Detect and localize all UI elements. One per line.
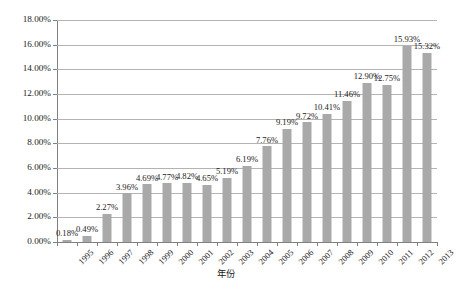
x-axis-tick bbox=[357, 242, 358, 246]
bar[interactable] bbox=[103, 214, 112, 242]
x-axis-label: 2008 bbox=[337, 248, 355, 266]
y-axis-label: 0.00% bbox=[0, 237, 51, 246]
x-axis-tick bbox=[197, 242, 198, 246]
bar-value-label: 6.19% bbox=[236, 155, 258, 164]
bar[interactable] bbox=[223, 178, 232, 242]
x-axis-label: 2007 bbox=[317, 248, 335, 266]
x-axis-label: 2001 bbox=[197, 248, 215, 266]
bar[interactable] bbox=[83, 236, 92, 242]
bar-group: 9.72% bbox=[297, 20, 317, 242]
x-axis-tick bbox=[377, 242, 378, 246]
y-axis-label: 4.00% bbox=[0, 188, 51, 197]
x-axis-label: 1996 bbox=[97, 248, 115, 266]
bar[interactable] bbox=[303, 122, 312, 242]
y-axis-label: 2.00% bbox=[0, 212, 51, 221]
bar-group: 3.96% bbox=[117, 20, 137, 242]
bar-value-label: 4.65% bbox=[196, 174, 218, 183]
gridline bbox=[57, 242, 437, 243]
x-axis-label: 1998 bbox=[137, 248, 155, 266]
x-axis-label: 1995 bbox=[77, 248, 95, 266]
bar-group: 12.75% bbox=[377, 20, 397, 242]
bar-group: 15.93% bbox=[397, 20, 417, 242]
bar-value-label: 4.69% bbox=[136, 174, 158, 183]
bar[interactable] bbox=[163, 183, 172, 242]
x-axis-label: 2004 bbox=[257, 248, 275, 266]
x-axis-tick bbox=[57, 242, 58, 246]
y-axis-label: 8.00% bbox=[0, 138, 51, 147]
x-axis-label: 2000 bbox=[177, 248, 195, 266]
x-axis-tick bbox=[177, 242, 178, 246]
bar[interactable] bbox=[203, 185, 212, 242]
x-axis-label: 2005 bbox=[277, 248, 295, 266]
bar-value-label: 2.27% bbox=[96, 203, 118, 212]
bar-group: 12.90% bbox=[357, 20, 377, 242]
bar[interactable] bbox=[263, 146, 272, 242]
x-axis-label: 2010 bbox=[377, 248, 395, 266]
bar-value-label: 15.32% bbox=[414, 42, 441, 51]
bar-group: 15.32% bbox=[417, 20, 437, 242]
bar-value-label: 4.82% bbox=[176, 172, 198, 181]
x-axis-tick bbox=[137, 242, 138, 246]
bar-group: 6.19% bbox=[237, 20, 257, 242]
x-axis-tick bbox=[217, 242, 218, 246]
bar-group: 4.65% bbox=[197, 20, 217, 242]
x-axis-tick bbox=[77, 242, 78, 246]
bar[interactable] bbox=[123, 193, 132, 242]
bar-group: 11.46% bbox=[337, 20, 357, 242]
bar-group: 4.77% bbox=[157, 20, 177, 242]
x-axis-label: 2013 bbox=[437, 248, 455, 266]
x-axis-label: 2009 bbox=[357, 248, 375, 266]
bar-group: 2.27% bbox=[97, 20, 117, 242]
x-axis-tick bbox=[117, 242, 118, 246]
x-axis-label: 1999 bbox=[157, 248, 175, 266]
bar-value-label: 4.77% bbox=[156, 173, 178, 182]
y-axis-label: 6.00% bbox=[0, 163, 51, 172]
x-axis-label: 2002 bbox=[217, 248, 235, 266]
bar[interactable] bbox=[343, 101, 352, 242]
x-axis-title: 年份 bbox=[0, 270, 451, 279]
bar-value-label: 9.72% bbox=[296, 112, 318, 121]
bar-group: 9.19% bbox=[277, 20, 297, 242]
x-axis-label: 2011 bbox=[397, 248, 415, 266]
x-axis-tick bbox=[337, 242, 338, 246]
bar[interactable] bbox=[323, 114, 332, 242]
bar[interactable] bbox=[143, 184, 152, 242]
x-axis-tick bbox=[437, 242, 438, 246]
bar-value-label: 0.49% bbox=[76, 225, 98, 234]
bar-value-label: 0.18% bbox=[56, 229, 78, 238]
bar[interactable] bbox=[363, 83, 372, 242]
bar[interactable] bbox=[283, 129, 292, 242]
bar-value-label: 9.19% bbox=[276, 118, 298, 127]
x-axis-tick bbox=[237, 242, 238, 246]
bar-value-label: 3.96% bbox=[116, 183, 138, 192]
bar-value-label: 7.76% bbox=[256, 136, 278, 145]
bar[interactable] bbox=[403, 46, 412, 242]
bar-group: 4.82% bbox=[177, 20, 197, 242]
bar[interactable] bbox=[423, 53, 432, 242]
x-axis-label: 2006 bbox=[297, 248, 315, 266]
bar-group: 0.18% bbox=[57, 20, 77, 242]
bar-group: 10.41% bbox=[317, 20, 337, 242]
bar-group: 5.19% bbox=[217, 20, 237, 242]
bar[interactable] bbox=[63, 240, 72, 242]
plot-area: 0.18%0.49%2.27%3.96%4.69%4.77%4.82%4.65%… bbox=[57, 20, 437, 242]
x-axis-label: 2003 bbox=[237, 248, 255, 266]
x-axis-label: 1997 bbox=[117, 248, 135, 266]
bar[interactable] bbox=[183, 183, 192, 242]
x-axis-tick bbox=[97, 242, 98, 246]
x-axis-label: 2012 bbox=[417, 248, 435, 266]
bar-value-label: 5.19% bbox=[216, 167, 238, 176]
y-axis-label: 16.00% bbox=[0, 40, 51, 49]
bar[interactable] bbox=[243, 166, 252, 242]
bar-group: 4.69% bbox=[137, 20, 157, 242]
x-axis-tick bbox=[257, 242, 258, 246]
bar[interactable] bbox=[383, 85, 392, 242]
x-axis-tick bbox=[417, 242, 418, 246]
x-axis-tick bbox=[397, 242, 398, 246]
x-axis-tick bbox=[317, 242, 318, 246]
y-axis-label: 14.00% bbox=[0, 64, 51, 73]
x-axis-tick bbox=[157, 242, 158, 246]
x-axis-tick bbox=[277, 242, 278, 246]
y-axis-label: 18.00% bbox=[0, 15, 51, 24]
